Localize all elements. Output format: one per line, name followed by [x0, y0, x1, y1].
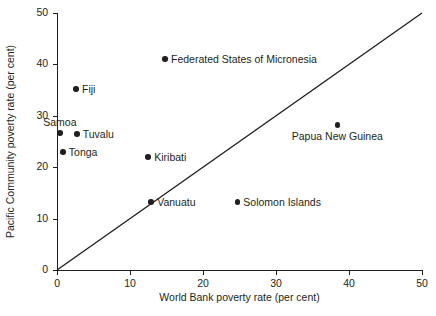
data-point-label: Federated States of Micronesia — [171, 53, 317, 64]
data-point — [235, 199, 241, 205]
data-point-label: Papua New Guinea — [292, 131, 383, 142]
data-point-label: Tuvalu — [83, 128, 114, 139]
x-axis-title: World Bank poverty rate (per cent) — [57, 291, 422, 303]
data-point — [335, 122, 341, 128]
data-point — [74, 131, 80, 137]
data-point-label: Kiribati — [154, 151, 186, 162]
data-point — [162, 56, 168, 62]
scatter-chart: 01020304050 01020304050 SamoaTuvaluTonga… — [0, 0, 436, 316]
data-point-label: Fiji — [82, 84, 95, 95]
data-point-label: Tonga — [69, 146, 98, 157]
parity-reference-line — [0, 0, 436, 316]
data-point-label: Solomon Islands — [243, 197, 321, 208]
data-point — [148, 199, 154, 205]
y-axis-title: Pacific Community poverty rate (per cent… — [4, 13, 18, 270]
data-point-label: Vanuatu — [157, 197, 195, 208]
data-point — [60, 149, 66, 155]
data-point — [145, 154, 151, 160]
data-point — [73, 86, 79, 92]
data-point — [57, 130, 63, 136]
data-point-label: Samoa — [43, 117, 76, 128]
